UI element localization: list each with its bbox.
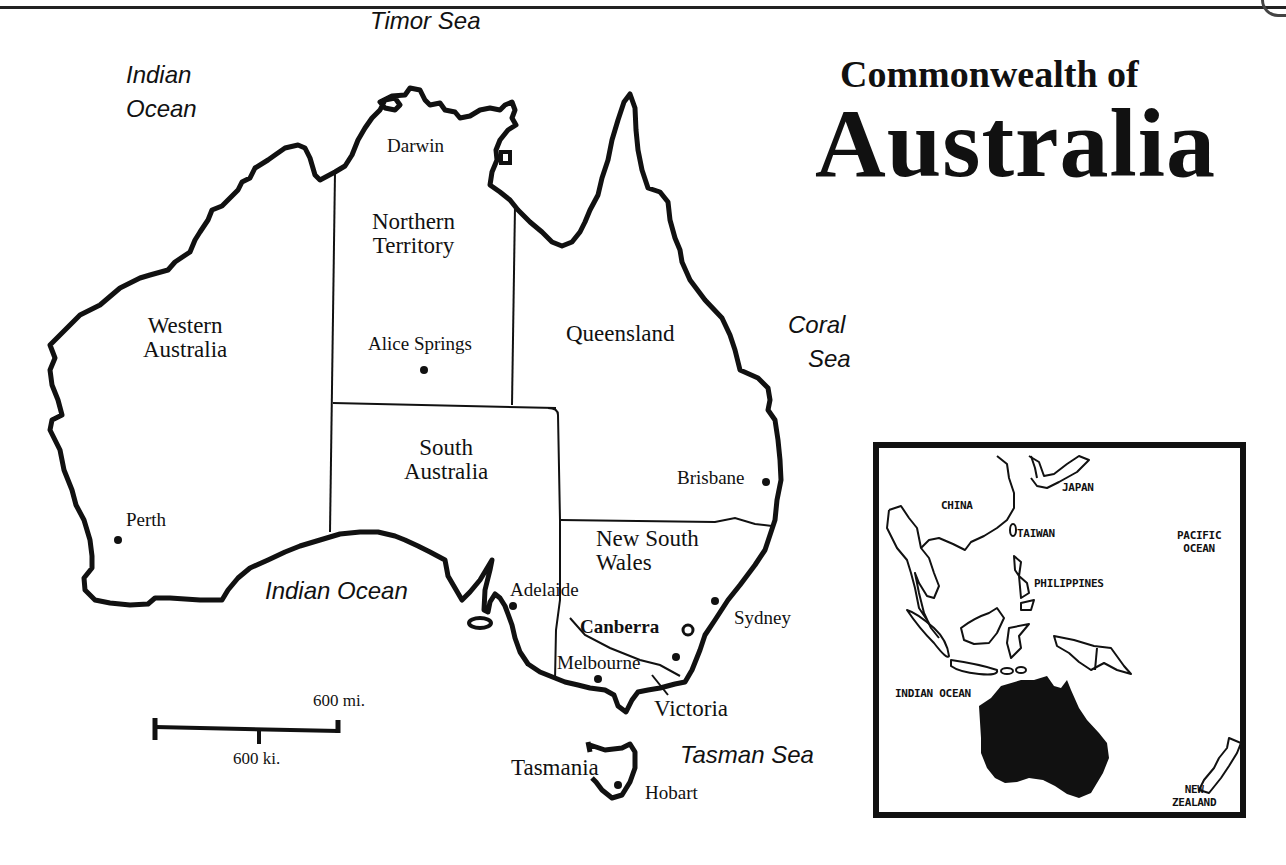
inset-label-indian-ocean: INDIAN OCEAN — [895, 688, 971, 701]
melbourne-dot — [594, 675, 602, 683]
inset-label-pacific-line1: PACIFIC — [1177, 530, 1221, 543]
brisbane-dot — [762, 478, 770, 486]
sydney-dot — [711, 597, 719, 605]
state-new-south-wales: New South Wales — [596, 527, 699, 575]
kangaroo-island — [469, 618, 491, 628]
indian-ocean-nw-label-line1: Indian — [126, 62, 191, 87]
inset-java — [951, 660, 997, 675]
inset-label-china: CHINA — [941, 500, 973, 513]
albury-dot — [672, 653, 680, 661]
inset-label-pacific-line2: OCEAN — [1177, 543, 1221, 556]
state-tasmania-line1: Tasmania — [511, 756, 599, 780]
state-new-south-wales-line1: New South — [596, 527, 699, 551]
state-victoria-line1: Victoria — [654, 697, 728, 721]
inset-sulawesi — [1007, 624, 1029, 658]
city-sydney: Sydney — [734, 608, 791, 628]
inset-australia-silhouette — [979, 676, 1109, 798]
inset-label-japan: JAPAN — [1062, 482, 1094, 495]
inset-label-nz-line2: ZEALAND — [1172, 797, 1216, 810]
city-hobart: Hobart — [645, 783, 698, 803]
inset-locator-map: CHINA JAPAN TAIWAN PHILIPPINES PACIFIC O… — [873, 442, 1246, 818]
city-alice-springs: Alice Springs — [368, 334, 472, 354]
inset-label-taiwan: TAIWAN — [1017, 528, 1055, 541]
state-new-south-wales-line2: Wales — [596, 551, 699, 575]
coral-sea-label-line1: Coral — [788, 312, 845, 337]
inset-label-new-zealand: NEW ZEALAND — [1172, 784, 1216, 809]
scale-km-label: 600 ki. — [233, 750, 280, 768]
indian-ocean-nw-label-line2: Ocean — [126, 96, 197, 121]
inset-label-pacific-ocean: PACIFIC OCEAN — [1177, 530, 1221, 555]
hobart-dot — [614, 781, 622, 789]
state-south-australia-line2: Australia — [404, 460, 488, 484]
adelaide-dot — [509, 602, 517, 610]
state-western-australia: Western Australia — [143, 314, 227, 362]
city-markers — [114, 366, 770, 789]
inset-map-drawing — [879, 448, 1240, 812]
inset-borneo — [961, 608, 1004, 644]
city-brisbane: Brisbane — [677, 468, 745, 488]
state-western-australia-line2: Australia — [143, 338, 227, 362]
inset-philippines — [1014, 556, 1034, 610]
mainland-coastline — [50, 88, 781, 712]
scale-bar — [155, 718, 339, 744]
state-tasmania: Tasmania — [511, 756, 599, 780]
inset-sumatra — [907, 610, 949, 657]
tasman-sea-label: Tasman Sea — [680, 742, 814, 767]
state-south-australia: South Australia — [404, 436, 488, 484]
alice-springs-dot — [420, 366, 428, 374]
scale-miles-label: 600 mi. — [313, 692, 365, 710]
state-victoria: Victoria — [654, 697, 728, 721]
perth-dot — [114, 536, 122, 544]
inset-taiwan — [1010, 524, 1016, 536]
state-south-australia-line1: South — [404, 436, 488, 460]
state-northern-territory-line2: Territory — [372, 234, 455, 258]
city-adelaide: Adelaide — [510, 580, 579, 600]
state-northern-territory-line1: Northern — [372, 210, 455, 234]
city-perth: Perth — [126, 510, 166, 530]
groote-island — [501, 152, 510, 163]
state-queensland-line1: Queensland — [566, 322, 675, 346]
state-queensland: Queensland — [566, 322, 675, 346]
state-northern-territory: Northern Territory — [372, 210, 455, 258]
inset-label-philippines: PHILIPPINES — [1034, 578, 1104, 591]
indian-ocean-south-label: Indian Ocean — [265, 578, 408, 603]
timor-sea-label: Timor Sea — [370, 8, 480, 33]
coral-sea-label-line2: Sea — [808, 346, 851, 371]
inset-label-nz-line1: NEW — [1172, 784, 1216, 797]
state-western-australia-line1: Western — [143, 314, 227, 338]
title-line-2: Australia — [815, 92, 1216, 195]
city-melbourne: Melbourne — [557, 653, 640, 673]
city-darwin: Darwin — [387, 136, 444, 156]
canberra-capital-marker — [683, 625, 693, 635]
city-canberra: Canberra — [580, 617, 659, 637]
inset-new-guinea — [1054, 636, 1131, 674]
